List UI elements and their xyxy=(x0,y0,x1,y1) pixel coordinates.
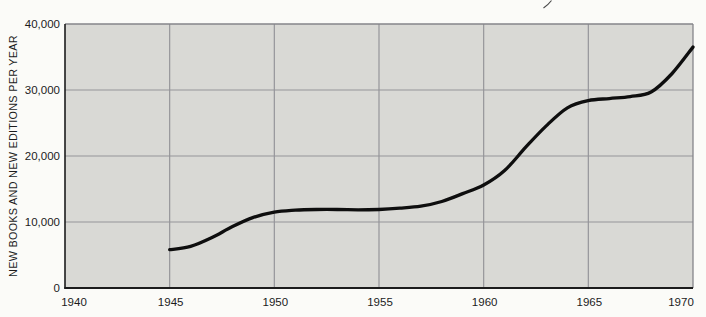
x-tick-label: 1945 xyxy=(158,296,184,308)
y-tick-label: 10,000 xyxy=(25,216,60,228)
x-tick-label: 1955 xyxy=(367,296,393,308)
x-tick-label: 1950 xyxy=(263,296,289,308)
y-tick-label: 0 xyxy=(54,282,60,294)
books-editions-line-chart: 010,00020,00030,00040,000194019451950195… xyxy=(0,0,706,317)
x-tick-label: 1970 xyxy=(668,296,694,308)
x-tick-label: 1965 xyxy=(577,296,603,308)
x-tick-label: 1960 xyxy=(472,296,498,308)
y-tick-label: 40,000 xyxy=(25,18,60,30)
stray-ink-mark-icon xyxy=(544,1,552,9)
scanned-chart-page: 010,00020,00030,00040,000194019451950195… xyxy=(0,0,706,317)
y-tick-label: 20,000 xyxy=(25,150,60,162)
x-tick-label: 1940 xyxy=(61,296,87,308)
y-axis-title: NEW BOOKS AND NEW EDITIONS PER YEAR xyxy=(7,35,19,277)
y-tick-label: 30,000 xyxy=(25,84,60,96)
